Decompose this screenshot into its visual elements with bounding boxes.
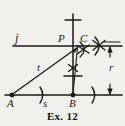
figure-caption: Ex. 12 <box>0 110 125 122</box>
geometry-figure-ex-12: j P C t r A s B Ex. 12 <box>0 0 125 126</box>
label-point-p: P <box>58 33 65 44</box>
segment-t <box>12 48 78 95</box>
label-point-b: B <box>69 98 76 109</box>
arc-x-near-c <box>77 42 89 57</box>
label-segment-r: r <box>109 62 113 73</box>
label-line-j: j <box>15 32 18 44</box>
figure-drawing-canvas <box>0 0 125 126</box>
label-segment-s: s <box>43 98 47 109</box>
label-segment-t: t <box>37 62 40 73</box>
label-point-c: C <box>80 33 87 44</box>
label-point-a: A <box>7 98 14 109</box>
